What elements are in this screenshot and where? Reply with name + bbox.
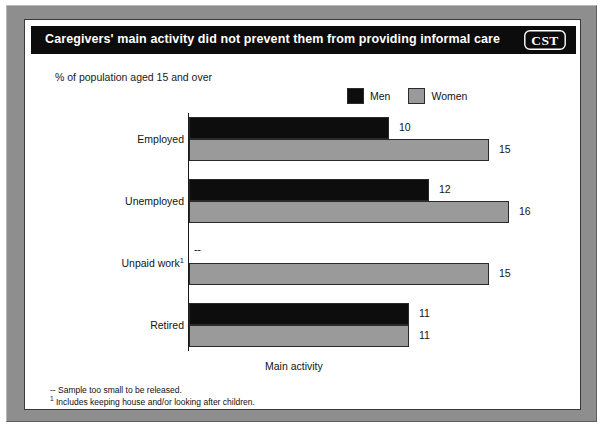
- category-label-unemployed: Unemployed: [125, 195, 184, 207]
- bar-value-employed-men: 10: [399, 121, 411, 133]
- bar-value-unpaid-work-men: --: [194, 243, 200, 255]
- category-label-unpaid-work: Unpaid work1: [121, 257, 184, 269]
- footnote-one: 1 Includes keeping house and/or looking …: [50, 397, 260, 409]
- bar-value-retired-women: 11: [419, 329, 430, 341]
- chart-legend: Men Women: [347, 88, 467, 104]
- chart-subtitle: % of population aged 15 and over: [55, 71, 212, 83]
- legend-swatch-men-icon: [347, 88, 364, 104]
- bar-value-employed-women: 15: [499, 143, 511, 155]
- footnote-source: Source: Statistics Canada, 1996 General …: [50, 408, 260, 410]
- bar-value-unemployed-women: 16: [519, 205, 531, 217]
- legend-entry-women: Women: [408, 88, 467, 104]
- bar-employed-women: [189, 139, 489, 161]
- plot-area: Employed 10 15 Unemployed 12: [31, 113, 576, 351]
- category-label-retired: Retired: [150, 319, 184, 331]
- category-label-employed: Employed: [137, 133, 184, 145]
- category-label-unpaid-work-footnote-marker: 1: [180, 256, 184, 265]
- footnote-one-text: Includes keeping house and/or looking af…: [54, 397, 255, 407]
- bar-employed-men: [189, 117, 389, 139]
- bar-value-unpaid-work-women: 15: [499, 267, 511, 279]
- figure-panel: Caregivers' main activity did not preven…: [24, 19, 581, 410]
- bar-value-retired-men: 11: [419, 307, 430, 319]
- svg-text:CST: CST: [531, 33, 558, 48]
- bar-unemployed-women: [189, 201, 509, 223]
- legend-swatch-women-icon: [408, 88, 425, 104]
- footnote-dash: -- Sample too small to be released.: [50, 385, 260, 397]
- bar-retired-men: [189, 303, 409, 325]
- bar-value-unemployed-men: 12: [439, 183, 451, 195]
- legend-label-men: Men: [370, 90, 390, 102]
- chart-title-bar: Caregivers' main activity did not preven…: [31, 26, 576, 54]
- category-label-unpaid-work-text: Unpaid work: [121, 257, 179, 269]
- x-axis-title: Main activity: [265, 360, 323, 372]
- bar-unemployed-men: [189, 179, 429, 201]
- figure-outer-frame: Caregivers' main activity did not preven…: [6, 5, 597, 422]
- legend-label-women: Women: [431, 90, 467, 102]
- cst-logo-icon: CST: [524, 30, 566, 50]
- legend-entry-men: Men: [347, 88, 390, 104]
- bar-unpaid-work-women: [189, 263, 489, 285]
- bar-retired-women: [189, 325, 409, 347]
- footnotes-block: -- Sample too small to be released. 1 In…: [50, 385, 260, 410]
- page-title: Caregivers' main activity did not preven…: [45, 32, 500, 46]
